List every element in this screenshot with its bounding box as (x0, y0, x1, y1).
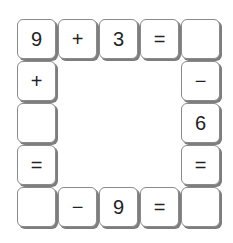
answer-box-left-middle[interactable] (17, 103, 56, 143)
answer-box-bottom-right[interactable] (181, 187, 220, 227)
tile-r1-c4: − (181, 61, 220, 101)
number-puzzle-grid: 9 + 3 = + − 6 = = − 9 = (17, 19, 222, 229)
tile-r0-c0: 9 (17, 19, 56, 59)
tile-r1-c0: + (17, 61, 56, 101)
tile-r4-c3: = (140, 187, 179, 227)
tile-r0-c3: = (140, 19, 179, 59)
tile-r0-c1: + (58, 19, 97, 59)
answer-box-bottom-left[interactable] (17, 187, 56, 227)
tile-r3-c4: = (181, 145, 220, 185)
tile-r0-c2: 3 (99, 19, 138, 59)
tile-r3-c0: = (17, 145, 56, 185)
tile-r4-c2: 9 (99, 187, 138, 227)
tile-r2-c4: 6 (181, 103, 220, 143)
answer-box-top-right[interactable] (181, 19, 220, 59)
tile-r4-c1: − (58, 187, 97, 227)
